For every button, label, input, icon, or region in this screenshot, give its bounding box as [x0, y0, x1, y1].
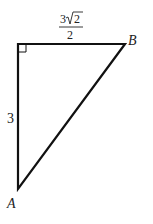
- vertex-label-b: B: [128, 33, 137, 48]
- vertex-label-a: A: [6, 196, 16, 211]
- fraction-denominator: 2: [67, 28, 73, 42]
- triangle: [18, 44, 125, 189]
- fraction-radicand: 2: [74, 12, 80, 26]
- triangle-diagram: 3 2 2 3 B A: [0, 0, 153, 224]
- fraction-numerator-coefficient: 3: [60, 12, 66, 26]
- top-side-label: 3 2 2: [59, 12, 83, 42]
- right-angle-marker: [18, 44, 26, 52]
- left-side-label: 3: [7, 111, 14, 126]
